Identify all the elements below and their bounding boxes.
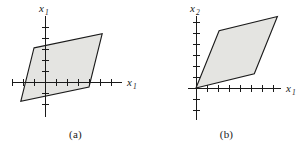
figure-container: x1x1 (a) x2x1 (b) <box>0 0 302 151</box>
y-axis-label-subscript: 2 <box>196 8 200 17</box>
x-axis-label-subscript: 1 <box>292 88 296 97</box>
parallelogram-region <box>196 17 277 89</box>
panel-a-caption: (a) <box>0 128 151 140</box>
y-axis-label-subscript: 1 <box>45 8 49 17</box>
panel-a: x1x1 (a) <box>0 0 151 151</box>
y-axis-label: x <box>189 2 195 14</box>
panel-b-caption: (b) <box>151 128 302 140</box>
panel-b: x2x1 (b) <box>151 0 302 151</box>
x-axis-label: x <box>126 76 132 88</box>
x-axis-label: x <box>285 82 291 94</box>
parallelogram-region <box>21 34 102 102</box>
y-axis-label: x <box>38 2 44 14</box>
x-axis-label-subscript: 1 <box>133 82 137 91</box>
